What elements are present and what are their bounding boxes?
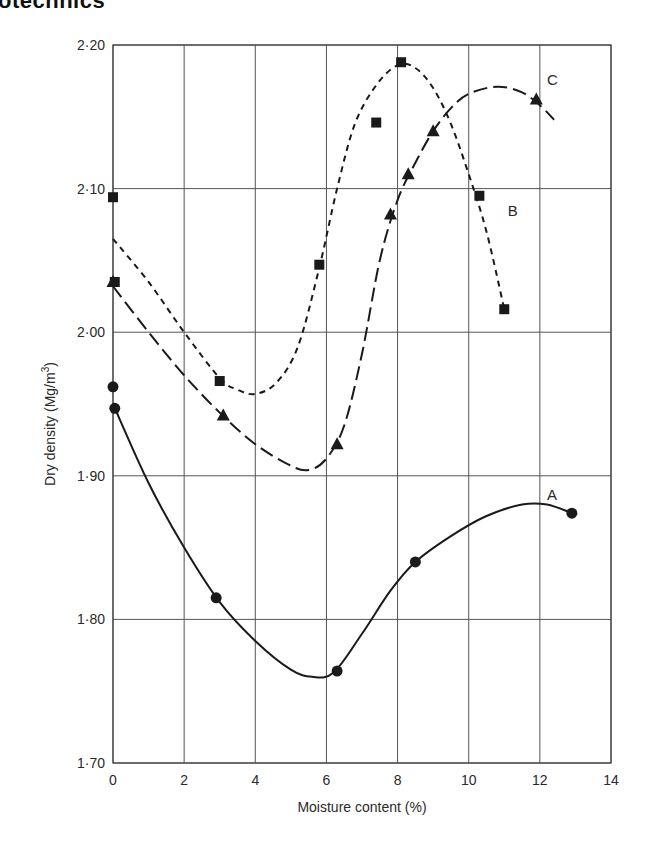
series-b-label: B <box>508 202 518 219</box>
y-axis-ticks: 1·701·801·902·002·102·20 <box>77 37 105 771</box>
y-axis-title: Dry density (Mg/m3) <box>40 362 58 486</box>
y-tick-label: 1·70 <box>77 755 105 771</box>
square-marker-icon <box>499 304 509 314</box>
x-tick-label: 0 <box>109 772 117 788</box>
grid <box>113 45 611 763</box>
x-tick-label: 2 <box>180 772 188 788</box>
triangle-marker-icon <box>402 167 415 179</box>
square-marker-icon <box>474 191 484 201</box>
circle-marker-icon <box>410 556 421 567</box>
circle-marker-icon <box>109 403 120 414</box>
series-a-label: A <box>547 486 557 503</box>
y-axis-title-close: ) <box>42 362 58 367</box>
fit-curves <box>113 64 572 678</box>
y-tick-label: 1·90 <box>77 468 105 484</box>
x-tick-label: 4 <box>251 772 259 788</box>
x-tick-label: 10 <box>461 772 477 788</box>
x-axis-ticks: 02468101214 <box>109 772 619 788</box>
y-tick-label: 2·00 <box>77 324 105 340</box>
x-tick-label: 6 <box>323 772 331 788</box>
plot-frame <box>113 45 611 763</box>
x-tick-label: 14 <box>603 772 619 788</box>
series-c-curve <box>113 87 554 471</box>
square-marker-icon <box>371 118 381 128</box>
series-c-label: C <box>547 71 558 88</box>
y-tick-label: 1·80 <box>77 611 105 627</box>
square-marker-icon <box>396 57 406 67</box>
x-axis-title: Moisture content (%) <box>297 799 426 815</box>
y-axis-title-main: Dry density (Mg/m <box>42 372 58 486</box>
x-tick-label: 8 <box>394 772 402 788</box>
triangle-marker-icon <box>331 437 344 449</box>
square-marker-icon <box>108 192 118 202</box>
circle-marker-icon <box>211 592 222 603</box>
plot-border <box>113 45 611 763</box>
y-tick-label: 2·10 <box>77 181 105 197</box>
circle-marker-icon <box>566 508 577 519</box>
triangle-marker-icon <box>384 207 397 219</box>
y-tick-label: 2·20 <box>77 37 105 53</box>
series-a-curve <box>113 404 572 678</box>
x-tick-label: 12 <box>532 772 548 788</box>
square-marker-icon <box>215 376 225 386</box>
square-marker-icon <box>314 260 324 270</box>
compaction-chart: 1·701·801·902·002·102·20 02468101214 ABC… <box>0 0 654 849</box>
curve-labels: ABC <box>508 71 558 503</box>
circle-marker-icon <box>332 666 343 677</box>
circle-marker-icon <box>108 381 119 392</box>
